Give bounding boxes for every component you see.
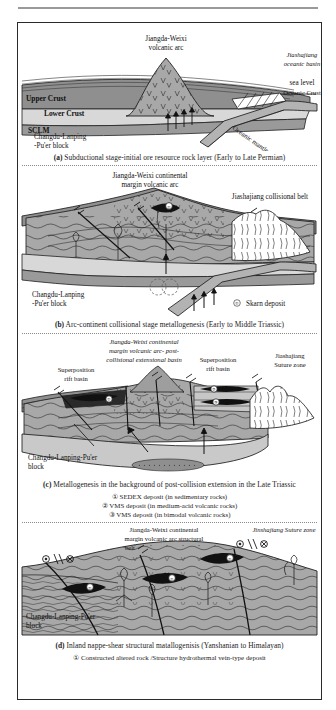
panel-a-artwork: Jiangda-Weixi volcanic arc Jiashajiang o… — [18, 23, 321, 151]
top-rule — [18, 7, 318, 9]
panel-c-legend-marker-2: ② — [102, 502, 108, 509]
panel-c-arc-label-line3: collisional extensional basin — [106, 356, 182, 363]
panel-a-caption: (a) Subductional stage-initial ore resou… — [18, 151, 321, 165]
panel-d-vein-marker-3: ① — [228, 557, 232, 562]
panel-d-block-label-line1: Changdu-Lanping-Pu'er — [26, 613, 96, 621]
panel-c-legend-marker-3: ③ — [109, 511, 115, 518]
panel-c-rift-right-line2: rift basin — [206, 365, 230, 372]
panel-c-block-label-line2: block — [28, 463, 44, 471]
panel-c-suture-label-line2: Suture zone — [274, 361, 305, 368]
panel-a-lower-crust-label: Lower Crust — [44, 109, 85, 118]
panel-c-rift-right-line1: Superposition — [200, 356, 237, 363]
panel-d-vein-marker-2: ① — [170, 577, 174, 582]
panel-b-block-label-line1: Changdu-Lanping — [32, 291, 85, 299]
panel-a-upper-crust-label: Upper Crust — [26, 94, 66, 103]
panel-c-caption: (c) Metallogenesis in the background of … — [18, 478, 321, 492]
panel-a-block-label-line1: Changdu-Lanping — [34, 133, 87, 141]
panel-d-caption: (d) Inland nappe-shear structural matall… — [18, 639, 321, 653]
panel-c-caption-label: (c) — [43, 480, 51, 489]
panel-c-legend: ① SEDEX deposit (in sedimentary rocks) ②… — [18, 492, 321, 522]
panel-c-sedex-marker-left: ① — [107, 397, 111, 402]
panel-b-caption-label: (b) — [55, 320, 64, 329]
panel-c-legend-text-3: VMS deposit (in bimodal volcanic rocks) — [116, 511, 230, 518]
panel-c-legend-text-1: SEDEX deposit (in sedimentary rocks) — [120, 493, 228, 500]
panel-d-legend-text-1: Constructed altered rock /Structure hydr… — [81, 654, 266, 661]
panel-c: ① ② ③ — [18, 334, 321, 523]
panel-c-legend-item-3: ③ VMS deposit (in bimodal volcanic rocks… — [21, 510, 318, 519]
panel-b-arc-label-line2: margin volcanic arc — [122, 181, 179, 189]
panel-c-block-label-line1: Changdu-Lanping-Pu'er — [28, 454, 98, 462]
panel-a-block-label-line2: -Pu'er block — [34, 142, 69, 150]
panel-b-caption-text: Arc-continent collisional stage metallog… — [66, 320, 285, 329]
panel-a: Jiangda-Weixi volcanic arc Jiashajiang o… — [18, 23, 321, 165]
panel-a-caption-text: Subductional stage-initial ore resource … — [64, 153, 285, 162]
figure-frame: Jiangda-Weixi volcanic arc Jiashajiang o… — [17, 22, 322, 700]
figure-page: Jiangda-Weixi volcanic arc Jiashajiang o… — [0, 0, 336, 710]
panel-c-suture-label-line1: Jiashajiang — [275, 352, 305, 359]
panel-d-artwork: ① ① ① — [18, 523, 321, 639]
panel-d-caption-label: (d) — [55, 641, 64, 650]
panel-c-vms-marker-2: ② — [212, 387, 216, 392]
panel-c-arc-label-line2: margin volcanic arc- post- — [109, 347, 179, 354]
panel-c-legend-text-2: VMS deposit (in medium-acid volcanic roc… — [109, 502, 237, 509]
panel-b-artwork: ① — [18, 166, 321, 318]
panel-b-legend-text: Skarn deposit — [246, 300, 285, 308]
panel-c-rift-left-line2: rift basin — [64, 375, 88, 382]
panel-a-arc-label-line1: Jiangda-Weixi — [145, 35, 186, 43]
panel-d-arc-label-line3: belt — [125, 544, 135, 551]
panel-d-legend-item-1: ① Constructed altered rock /Structure hy… — [21, 653, 318, 662]
panel-c-legend-item-1: ① SEDEX deposit (in sedimentary rocks) — [21, 492, 318, 501]
panel-a-oceanic-crust-label: Oceanic Crust — [283, 89, 321, 96]
panel-c-legend-marker-1: ① — [112, 493, 118, 500]
panel-d-legend-marker-1: ① — [73, 654, 79, 661]
panel-b-arc-label-line1: Jiangda-Weixi continental — [112, 172, 187, 180]
panel-c-legend-item-2: ② VMS deposit (in medium-acid volcanic r… — [21, 501, 318, 510]
panel-c-vms-marker-3: ③ — [214, 400, 218, 405]
panel-d-caption-text: Inland nappe-shear structural matallogen… — [67, 641, 284, 650]
panel-a-basin-label-line2: oceanic basin — [284, 60, 321, 67]
panel-d-legend: ① Constructed altered rock /Structure hy… — [18, 653, 321, 665]
panel-c-artwork: ① ② ③ — [18, 334, 321, 478]
panel-d: ① ① ① — [18, 523, 321, 665]
panel-c-arc-label-line1: Jiangda-Weixi continental — [109, 338, 178, 345]
panel-b-legend-marker: ① — [235, 302, 239, 307]
panel-a-caption-label: (a) — [54, 153, 63, 162]
panel-b-block-label-line2: -Pu'er block — [32, 300, 67, 308]
panel-b-belt-label: Jiashajiang collisional belt — [232, 193, 308, 201]
panel-c-rift-left-line1: Superposition — [58, 366, 95, 373]
panel-d-suture-label: Jinshajiang Suture zone — [252, 526, 315, 533]
panel-b: ① — [18, 166, 321, 332]
panel-d-vein-marker-1: ① — [88, 586, 92, 591]
panel-a-basin-label-line1: Jiashajiang — [287, 51, 318, 58]
panel-c-caption-text: Metallogenesis in the background of post… — [53, 480, 296, 489]
panel-a-arc-label-line2: volcanic arc — [149, 44, 184, 52]
panel-b-skarn-marker: ① — [167, 205, 171, 210]
panel-d-block-label-line2: block — [26, 622, 42, 630]
panel-d-arc-label-line2: margin volcanic arc structural — [125, 535, 204, 542]
panel-b-caption: (b) Arc-continent collisional stage meta… — [18, 318, 321, 332]
panel-a-sea-level-label: sea level — [290, 79, 315, 87]
panel-d-arc-label-line1: Jiangda-Weixi continental — [130, 526, 199, 533]
